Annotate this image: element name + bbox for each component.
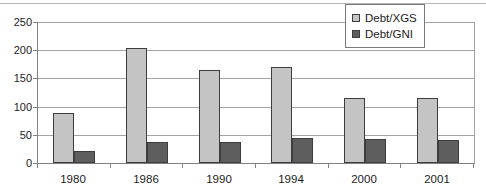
bar-debt-xgs-1980 [53, 113, 74, 163]
bar-debt-xgs-1986 [126, 48, 147, 163]
legend-label: Debt/GNI [365, 28, 413, 41]
legend-swatch-icon [352, 30, 360, 38]
y-tick-label-0: 0 [2, 157, 32, 169]
x-tick-3 [255, 164, 256, 168]
x-tick-label-1990: 1990 [189, 173, 249, 186]
legend-item-debt-gni: Debt/GNI [352, 26, 417, 42]
bar-debt-xgs-1990 [199, 70, 220, 163]
bar-debt-xgs-2000 [344, 98, 365, 163]
legend-item-debt-xgs: Debt/XGS [352, 10, 417, 26]
x-tick-label-1980: 1980 [43, 173, 103, 186]
bar-debt-gni-2001 [438, 140, 459, 163]
bar-debt-xgs-2001 [417, 98, 438, 163]
y-tick-label-50: 50 [2, 129, 32, 141]
x-tick-label-1986: 1986 [116, 173, 176, 186]
legend-label: Debt/XGS [365, 12, 417, 25]
legend: Debt/XGSDebt/GNI [345, 4, 425, 48]
x-tick-label-1994: 1994 [261, 173, 321, 186]
x-tick-0 [37, 164, 38, 168]
bar-debt-gni-1980 [74, 151, 95, 163]
x-tick-label-2000: 2000 [334, 173, 394, 186]
x-tick-5 [400, 164, 401, 168]
gridline-50 [38, 135, 474, 136]
bar-debt-gni-1990 [220, 142, 241, 163]
gridline-100 [38, 107, 474, 108]
y-tick-label-250: 250 [2, 16, 32, 28]
x-tick-2 [182, 164, 183, 168]
x-tick-1 [110, 164, 111, 168]
bar-debt-gni-1986 [147, 142, 168, 163]
bar-debt-gni-2000 [365, 139, 386, 163]
x-tick-4 [328, 164, 329, 168]
bar-debt-xgs-1994 [271, 67, 292, 163]
x-tick-label-2001: 2001 [407, 173, 467, 186]
gridline-150 [38, 78, 474, 79]
x-tick-6 [473, 164, 474, 168]
y-tick-label-150: 150 [2, 72, 32, 84]
y-tick-label-200: 200 [2, 44, 32, 56]
y-tick-label-100: 100 [2, 101, 32, 113]
bar-chart: 050100150200250 198019861990199420002001… [0, 0, 486, 195]
bar-debt-gni-1994 [292, 138, 313, 163]
legend-swatch-icon [352, 14, 360, 22]
gridline-200 [38, 50, 474, 51]
